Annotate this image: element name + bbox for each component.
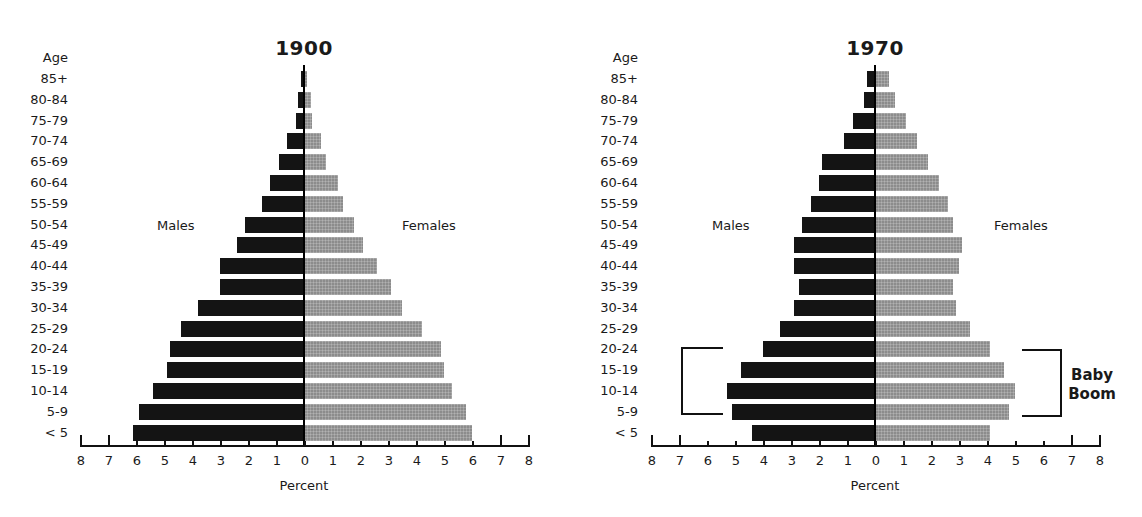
age-group-label: 65-69: [4, 154, 68, 170]
age-group-label: 85+: [4, 71, 68, 87]
age-group-label: 5-9: [4, 404, 68, 420]
male-bar: [245, 217, 304, 233]
baby-boom-annotation-line2: Boom: [1064, 385, 1120, 404]
x-tick-label: 8: [525, 453, 533, 468]
female-bar: [304, 175, 338, 191]
male-bar: [844, 133, 875, 149]
chart-title: 1970: [846, 36, 904, 60]
age-group-label: 45-49: [574, 237, 638, 253]
female-bar: [875, 321, 970, 337]
age-group-label: < 5: [4, 425, 68, 441]
age-group-label: 10-14: [4, 383, 68, 399]
x-tick-label: 1: [273, 453, 281, 468]
female-bar: [875, 425, 990, 441]
age-group-label: 55-59: [574, 196, 638, 212]
age-group-label: 75-79: [4, 113, 68, 129]
x-tick: [651, 435, 653, 445]
female-bar: [875, 237, 962, 253]
male-bar: [794, 300, 875, 316]
male-bar: [167, 362, 304, 378]
x-tick: [735, 441, 737, 445]
x-tick-label: 3: [956, 453, 964, 468]
x-tick: [192, 441, 194, 445]
age-group-label: 80-84: [4, 92, 68, 108]
x-tick-label: 2: [357, 453, 365, 468]
female-bar: [875, 217, 953, 233]
male-bar: [237, 237, 304, 253]
females-label: Females: [402, 218, 456, 233]
x-tick-label: 2: [816, 453, 824, 468]
male-bar: [780, 321, 875, 337]
x-axis-line: [80, 445, 530, 447]
age-group-label: 70-74: [4, 133, 68, 149]
x-tick: [164, 441, 166, 445]
x-tick: [763, 441, 765, 445]
x-tick-label: 7: [676, 453, 684, 468]
x-tick: [444, 441, 446, 445]
male-bar: [853, 113, 875, 129]
x-tick: [360, 441, 362, 445]
male-bar: [133, 425, 304, 441]
x-tick: [80, 435, 82, 445]
x-tick-label: 6: [704, 453, 712, 468]
x-tick-label: 8: [77, 453, 85, 468]
age-group-label: 40-44: [574, 258, 638, 274]
age-group-label: 30-34: [574, 300, 638, 316]
x-tick-label: 6: [1040, 453, 1048, 468]
female-bar: [875, 92, 895, 108]
female-bar: [304, 362, 444, 378]
x-tick: [847, 441, 849, 445]
x-tick: [1015, 441, 1017, 445]
x-tick-label: 1: [900, 453, 908, 468]
female-bar: [875, 175, 939, 191]
x-tick-label: 7: [1068, 453, 1076, 468]
male-bar: [799, 279, 875, 295]
baby-boom-bracket-left: [681, 347, 723, 415]
male-bar: [819, 175, 875, 191]
x-tick: [679, 435, 681, 445]
x-tick-label: 0: [872, 453, 880, 468]
age-group-label: 60-64: [574, 175, 638, 191]
x-tick-label: 6: [133, 453, 141, 468]
x-tick: [931, 441, 933, 445]
x-tick: [819, 441, 821, 445]
x-tick: [388, 441, 390, 445]
x-tick: [875, 441, 877, 445]
male-bar: [220, 279, 304, 295]
x-tick: [332, 441, 334, 445]
x-axis-line: [651, 445, 1101, 447]
x-tick-label: 3: [385, 453, 393, 468]
male-bar: [822, 154, 875, 170]
male-bar: [270, 175, 304, 191]
x-tick: [959, 441, 961, 445]
age-group-label: 10-14: [574, 383, 638, 399]
age-group-label: 70-74: [574, 133, 638, 149]
female-bar: [304, 133, 321, 149]
x-tick: [248, 441, 250, 445]
female-bar: [875, 341, 990, 357]
x-tick: [987, 441, 989, 445]
x-tick-label: 4: [760, 453, 768, 468]
female-bar: [875, 404, 1009, 420]
male-bar: [181, 321, 304, 337]
female-bar: [875, 383, 1015, 399]
x-tick-label: 0: [301, 453, 309, 468]
female-bar: [875, 362, 1004, 378]
female-bar: [875, 196, 948, 212]
male-bar: [198, 300, 304, 316]
female-bar: [875, 154, 928, 170]
x-tick-label: 2: [928, 453, 936, 468]
chart-title: 1900: [275, 36, 333, 60]
age-group-label: 15-19: [4, 362, 68, 378]
baby-boom-bracket-right: [1022, 349, 1062, 417]
age-group-label: 5-9: [574, 404, 638, 420]
male-bar: [287, 133, 304, 149]
x-tick: [1043, 441, 1045, 445]
male-bar: [794, 237, 875, 253]
female-bar: [304, 279, 391, 295]
age-group-label: < 5: [574, 425, 638, 441]
female-bar: [875, 258, 959, 274]
x-tick-label: 4: [413, 453, 421, 468]
x-tick: [1099, 435, 1101, 445]
pyramid-1900: 1900Age85+80-8475-7970-7465-6960-6455-59…: [0, 0, 571, 517]
